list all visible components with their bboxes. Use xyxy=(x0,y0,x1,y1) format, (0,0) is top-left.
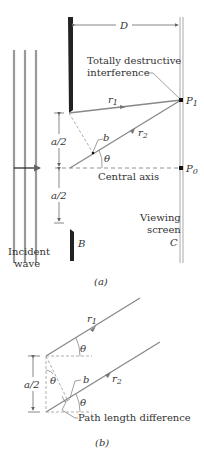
barrier-label: B xyxy=(77,238,85,249)
half-width-b-label: a/2 xyxy=(24,379,40,390)
point-p0 xyxy=(179,166,183,170)
ray-r1-label: r1 xyxy=(108,94,118,107)
perpendicular-dashed xyxy=(69,113,93,153)
incident-wavefronts xyxy=(14,50,36,263)
distance-label: D xyxy=(119,20,128,31)
screen-letter: C xyxy=(170,237,178,248)
ray-r2-b-label: r2 xyxy=(112,373,122,386)
theta-label: θ xyxy=(104,153,110,164)
ray-r2-label: r2 xyxy=(138,127,148,140)
screen-label-line2: screen xyxy=(147,224,181,235)
caption-a: (a) xyxy=(94,276,108,287)
single-slit-diffraction-diagram: D Totally destructive interference r1 r2… xyxy=(0,0,204,457)
theta-mid-label: θ xyxy=(50,375,56,386)
barrier-bottom xyxy=(70,229,74,261)
point-p1-label: P1 xyxy=(185,95,198,108)
half-width-bottom-label: a/2 xyxy=(51,190,67,201)
screen-label-line1: Viewing xyxy=(139,212,181,223)
annotation-line2: interference xyxy=(87,67,150,78)
wave-label-line2: wave xyxy=(14,258,40,269)
central-axis-label: Central axis xyxy=(98,171,159,182)
path-leader xyxy=(62,402,78,418)
annotation-line1: Totally destructive xyxy=(87,55,181,66)
b-label: b xyxy=(103,132,109,143)
theta-top-label: θ xyxy=(80,343,86,354)
barrier-top xyxy=(68,17,73,113)
wave-label-line1: Incident xyxy=(8,246,50,257)
point-p1 xyxy=(179,98,183,102)
ray-r1-b-label: r1 xyxy=(87,313,97,326)
ray-r2-b xyxy=(46,342,160,412)
caption-b: (b) xyxy=(95,437,109,448)
half-width-top-label: a/2 xyxy=(51,136,67,147)
annotation-leader xyxy=(146,73,181,100)
ray-r1-b xyxy=(46,298,140,356)
path-length-label: Path length difference xyxy=(78,412,191,423)
ray-r2 xyxy=(70,100,181,168)
b-label-b: b xyxy=(83,374,89,385)
point-p0-label: P0 xyxy=(185,163,198,176)
theta-bottom-label: θ xyxy=(80,397,86,408)
